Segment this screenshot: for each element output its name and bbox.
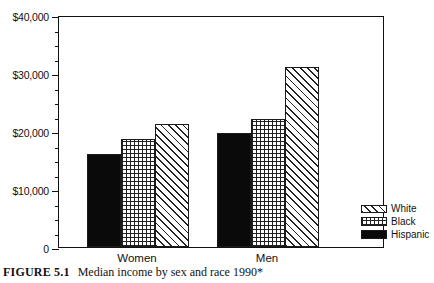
y-axis-tick-major — [52, 191, 59, 192]
y-axis-tick-minor — [55, 206, 60, 207]
y-axis-tick-minor — [55, 61, 60, 62]
legend-label-black: Black — [391, 216, 415, 228]
y-axis-label: 0 — [43, 243, 49, 255]
y-axis-tick-minor — [55, 119, 60, 120]
legend-swatch-hispanic — [361, 230, 387, 239]
legend-item-white: White — [361, 203, 433, 215]
bar-women-black — [121, 139, 155, 247]
y-axis-tick-minor — [55, 148, 60, 149]
bar-women-white — [155, 124, 189, 247]
y-axis-label: $10,000 — [12, 185, 49, 197]
legend-swatch-black — [361, 217, 387, 226]
y-axis-tick-major — [52, 133, 59, 134]
x-axis-label-men: Men — [256, 252, 278, 264]
y-axis-tick-minor — [55, 162, 60, 163]
bar-men-white — [285, 67, 319, 247]
legend-swatch-white — [361, 205, 387, 214]
y-axis-tick-minor — [55, 177, 60, 178]
y-axis-tick-major — [52, 75, 59, 76]
figure-caption-number: FIGURE 5.1 — [3, 265, 70, 279]
bar-men-hispanic — [217, 133, 251, 247]
y-axis-label: $20,000 — [12, 127, 49, 139]
chart-plot-area: $40,000$30,000$20,000$10,0000 — [58, 16, 384, 248]
bar-men-black — [251, 119, 285, 247]
legend-label-white: White — [391, 203, 417, 215]
y-axis-tick-minor — [55, 220, 60, 221]
chart-legend: WhiteBlackHispanic — [361, 203, 433, 241]
legend-label-hispanic: Hispanic — [391, 229, 429, 241]
y-axis-tick-minor — [55, 32, 60, 33]
figure-container: $40,000$30,000$20,000$10,0000 WomenMen W… — [0, 0, 434, 283]
bar-women-hispanic — [87, 154, 121, 247]
y-axis-tick-major — [52, 249, 59, 250]
y-axis-tick-minor — [55, 46, 60, 47]
y-axis-tick-major — [52, 17, 59, 18]
y-axis-tick-minor — [55, 104, 60, 105]
y-axis-tick-minor — [55, 235, 60, 236]
y-axis-tick-minor — [55, 90, 60, 91]
y-axis-label: $40,000 — [12, 11, 49, 23]
y-axis-label: $30,000 — [12, 69, 49, 81]
figure-caption: FIGURE 5.1Median income by sex and race … — [3, 265, 263, 280]
x-axis-label-women: Women — [117, 252, 156, 264]
figure-caption-text: Median income by sex and race 1990* — [78, 265, 263, 279]
legend-item-black: Black — [361, 216, 433, 228]
legend-item-hispanic: Hispanic — [361, 229, 433, 241]
